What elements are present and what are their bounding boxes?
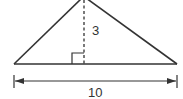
- arrowhead-right-icon: [167, 78, 176, 84]
- height-label: 3: [92, 23, 99, 38]
- triangle-right-side: [86, 0, 177, 64]
- triangle-diagram: 3 10: [0, 0, 183, 99]
- base-label: 10: [88, 85, 102, 99]
- arrowhead-left-icon: [15, 78, 24, 84]
- right-angle-marker-icon: [72, 53, 84, 64]
